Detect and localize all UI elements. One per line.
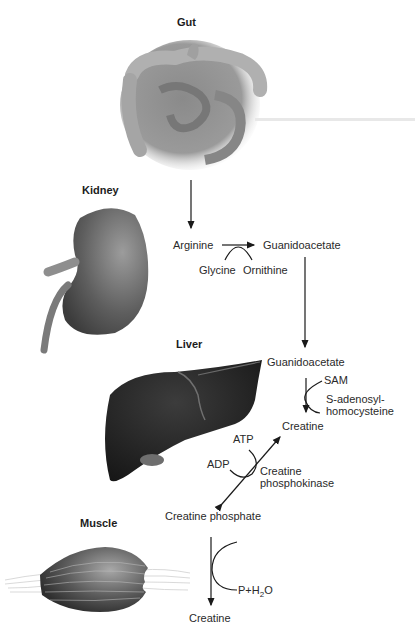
glycine-label: Glycine (199, 264, 236, 277)
sam-curve (305, 381, 322, 413)
phosphate-water-label: P+H2O (238, 584, 273, 601)
adp-label: ADP (207, 458, 230, 471)
atp-adp-curve (230, 450, 256, 477)
kidney-label: Kidney (82, 184, 119, 196)
arginine-label: Arginine (173, 239, 213, 252)
pathway-arrows (0, 0, 417, 641)
glycine-ornithine-curve (225, 247, 252, 260)
liver-label: Liver (176, 338, 202, 350)
creatine-liver-label: Creatine (282, 420, 324, 433)
gut-label: Gut (177, 16, 196, 28)
creatine-muscle-label: Creatine (189, 612, 231, 625)
guanidoacetate-kidney-label: Guanidoacetate (263, 239, 341, 252)
enzyme-label-line2: phosphokinase (260, 477, 334, 490)
creatine-phosphate-label: Creatine phosphate (165, 510, 261, 523)
sam-label: SAM (324, 374, 348, 387)
muscle-label: Muscle (80, 517, 117, 529)
guanidoacetate-liver-label: Guanidoacetate (267, 356, 345, 369)
homocysteine-label: homocysteine (326, 405, 394, 418)
atp-label: ATP (233, 433, 254, 446)
ornithine-label: Ornithine (243, 264, 288, 277)
hydrolysis-curve (212, 542, 237, 590)
